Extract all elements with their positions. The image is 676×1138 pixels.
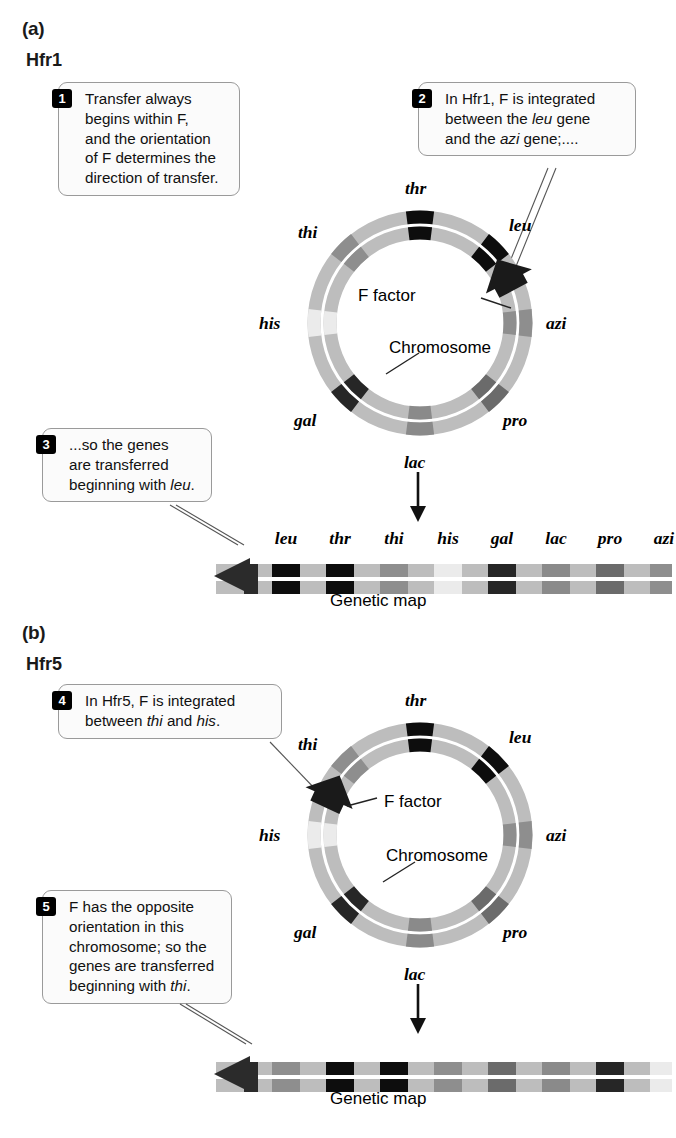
map-arrow-shaft [244,564,258,594]
callout-3: 3 ...so the genes are transferred beginn… [42,428,212,502]
circle-b-label-thr: thr [405,690,426,711]
panel-a-strain-title: Hfr1 [26,50,62,71]
panel-a-letter: (a) [22,18,44,40]
circle-b-label-pro: pro [503,922,527,943]
circle-b-label-lac: lac [404,964,425,985]
callout-4-line-2: between thi and his. [85,711,272,731]
circle-a-label-thr: thr [405,178,426,199]
callout-5-line-3: chromosome; so the [69,937,222,957]
chromosome-label-b: Chromosome [386,846,488,866]
panel-b-letter: (b) [22,622,45,644]
callout-2-badge: 2 [412,89,432,108]
map-gene-block-leu [380,1062,408,1075]
callout-5-badge: 5 [36,897,56,916]
circle-a-label-lac: lac [404,452,425,473]
circle-a-label-gal: gal [294,410,316,431]
panel-b-strain-title: Hfr5 [26,654,62,675]
map-gene-block-his [434,581,462,594]
map-label-his: his [422,528,474,549]
callout-4-line-1: In Hfr5, F is integrated [85,691,272,711]
genetic-map-a-caption: Genetic map [330,591,426,611]
circle-a-label-pro: pro [503,410,527,431]
map-label-gal: gal [476,528,528,549]
callout-1-line-1: Transfer always [85,89,230,109]
circle-a-label-thi: thi [298,222,317,243]
map-label-thi: thi [368,528,420,549]
callout-2-line-3: and the azi gene;.... [445,129,626,149]
map-gene-block-gal [596,1079,624,1092]
callout-1: 1 Transfer always begins within F, and t… [58,82,240,196]
map-gene-block-pro [488,1062,516,1075]
callout-4: 4 In Hfr5, F is integrated between thi a… [58,684,282,739]
callout-5: 5 F has the opposite orientation in this… [42,890,232,1004]
map-gene-block-thi [272,1079,300,1092]
map-gene-block-thi [272,1062,300,1075]
callout-3-line-1: ...so the genes [69,435,202,455]
map-arrow-shaft [244,1062,258,1092]
chromosome-label-a: Chromosome [389,338,491,358]
map-gene-block-thi [380,564,408,577]
callout-1-line-2: begins within F, [85,109,230,129]
map-label-leu: leu [260,528,312,549]
callout-3-line-2: are transferred [69,455,202,475]
callout-3-line-3: beginning with leu. [69,475,202,495]
callout-1-line-3: and the orientation [85,129,230,149]
genetic-map-b-caption: Genetic map [330,1089,426,1109]
circle-b-label-thi: thi [298,734,317,755]
map-gene-block-azi [650,581,672,594]
callout-5-line-5: beginning with thi. [69,976,222,996]
map-gene-block-leu [272,564,300,577]
map-gene-block-gal [488,564,516,577]
transfer-arrow-a [404,472,436,524]
map-label-azi: azi [638,528,676,549]
map-gene-block-his [650,1079,672,1092]
circle-b-label-leu: leu [509,727,531,748]
map-gene-block-lac [542,581,570,594]
map-gene-block-his [434,564,462,577]
map-gene-block-azi [434,1079,462,1092]
map-gene-block-thr [326,1062,354,1075]
circle-b-label-gal: gal [294,922,316,943]
map-gene-block-lac [542,564,570,577]
panel-a: (a) Hfr1 1 Transfer always begins within… [0,0,676,612]
callout-3-badge: 3 [36,435,56,454]
callout-2-line-2: between the leu gene [445,109,626,129]
callout-5-line-4: genes are transferred [69,956,222,976]
callout-2-line-1: In Hfr1, F is integrated [445,89,626,109]
callout-1-line-5: direction of transfer. [85,168,230,188]
callout-1-badge: 1 [52,89,72,108]
callout-5-line-1: F has the opposite [69,897,222,917]
map-label-thr: thr [314,528,366,549]
map-gene-block-leu [272,581,300,594]
f-factor-label-a: F factor [358,286,416,306]
circle-b-label-his: his [259,825,280,846]
callout-3-leader-line [170,505,260,560]
circle-a-label-leu: leu [509,215,531,236]
transfer-arrow-b [404,984,436,1036]
map-gene-block-pro [488,1079,516,1092]
callout-2: 2 In Hfr1, F is integrated between the l… [418,82,636,156]
callout-5-leader-line [180,1004,270,1056]
circle-b-label-azi: azi [546,825,566,846]
map-gene-block-pro [596,564,624,577]
map-gene-block-thr [326,564,354,577]
map-gene-block-his [650,1062,672,1075]
map-gene-block-gal [596,1062,624,1075]
map-gene-block-azi [434,1062,462,1075]
circle-a-label-azi: azi [546,313,566,334]
map-label-pro: pro [584,528,636,549]
map-gene-block-pro [596,581,624,594]
map-gene-block-azi [650,564,672,577]
circle-a-label-his: his [259,313,280,334]
map-label-lac: lac [530,528,582,549]
callout-4-badge: 4 [52,691,72,710]
panel-b: (b) Hfr5 4 In Hfr5, F is integrated betw… [0,612,676,1138]
callout-1-line-4: of F determines the [85,148,230,168]
map-gene-block-gal [488,581,516,594]
map-gene-block-lac [542,1079,570,1092]
map-gene-block-lac [542,1062,570,1075]
f-factor-label-b: F factor [384,792,442,812]
callout-5-line-2: orientation in this [69,917,222,937]
